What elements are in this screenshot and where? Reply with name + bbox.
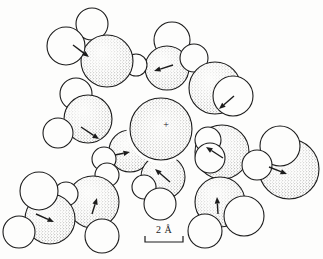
hydrated-ion-figure: + 2 Å <box>0 0 323 259</box>
figure-page: + 2 Å <box>0 0 323 259</box>
water-molecule <box>195 125 249 179</box>
hydrogen-sphere <box>47 27 85 65</box>
hydrogen-sphere <box>3 216 35 248</box>
hydrogen-sphere <box>188 214 222 248</box>
dipole-arrow-shaft <box>217 203 218 214</box>
hydrogen-sphere <box>242 150 272 180</box>
scale-bar-label: 2 Å <box>156 224 173 235</box>
hydrogen-sphere <box>224 196 264 236</box>
hydrogen-sphere <box>195 143 225 173</box>
hydrogen-sphere <box>43 118 73 148</box>
central-ion: + <box>127 95 196 164</box>
hydrogen-sphere <box>20 172 58 210</box>
hydrogen-sphere <box>85 219 119 253</box>
ion-charge-symbol: + <box>163 119 169 130</box>
hydrogen-sphere <box>144 188 176 220</box>
